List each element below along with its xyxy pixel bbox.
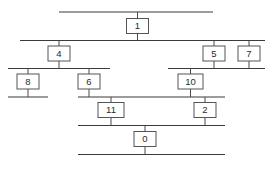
node-label-8: 8 xyxy=(25,76,30,87)
node-0[interactable]: 0 xyxy=(134,132,156,147)
node-6[interactable]: 6 xyxy=(78,74,100,89)
node-label-0: 0 xyxy=(142,133,147,144)
node-label-10: 10 xyxy=(185,76,196,87)
node-11[interactable]: 11 xyxy=(98,103,124,118)
node-8[interactable]: 8 xyxy=(17,74,39,89)
node-label-5: 5 xyxy=(211,48,216,59)
node-group: 145786101120 xyxy=(17,19,260,147)
node-2[interactable]: 2 xyxy=(194,103,216,118)
node-label-6: 6 xyxy=(86,76,91,87)
node-1[interactable]: 1 xyxy=(127,19,149,34)
node-label-7: 7 xyxy=(246,48,251,59)
node-4[interactable]: 4 xyxy=(48,46,70,61)
diagram-canvas: 145786101120 xyxy=(0,0,272,169)
node-label-2: 2 xyxy=(202,104,207,115)
node-10[interactable]: 10 xyxy=(178,74,203,89)
node-label-1: 1 xyxy=(135,20,140,31)
node-label-4: 4 xyxy=(56,48,61,59)
node-5[interactable]: 5 xyxy=(203,46,225,61)
precedence-diagram: 145786101120 xyxy=(0,0,272,169)
node-7[interactable]: 7 xyxy=(238,46,260,61)
node-label-11: 11 xyxy=(106,104,116,115)
